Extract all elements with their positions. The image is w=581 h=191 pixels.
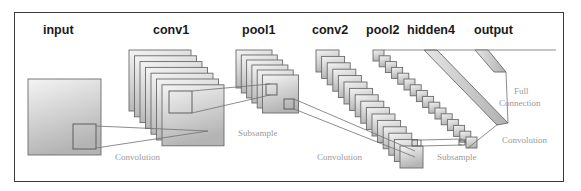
layer-titles: inputconv1pool1conv2pool2hidden4output — [43, 23, 514, 37]
feature-maps — [28, 50, 556, 168]
op-label-full-connection-line1: Full — [514, 86, 529, 96]
cnn-diagram: inputconv1pool1conv2pool2hidden4output C… — [0, 0, 581, 191]
layer-title-hidden4: hidden4 — [407, 23, 455, 37]
layer-title-output: output — [474, 23, 514, 37]
input-map — [28, 79, 101, 155]
op-label-convolution-1: Convolution — [115, 152, 161, 162]
output-bar — [475, 50, 506, 72]
op-label-convolution-3: Convolution — [502, 135, 548, 145]
layer-title-input: input — [43, 23, 74, 37]
hidden4-link — [468, 124, 498, 148]
layer-title-conv2: conv2 — [312, 23, 348, 37]
layer-title-pool2: pool2 — [366, 23, 399, 37]
op-label-convolution-2: Convolution — [317, 152, 363, 162]
pool2-link-top — [421, 139, 462, 140]
pool2-link-bottom — [421, 145, 462, 146]
op-label-subsample-2: Subsample — [437, 152, 477, 162]
op-label-full-connection-line2: Connection — [499, 98, 541, 108]
pool1-map — [263, 75, 299, 113]
layer-title-conv1: conv1 — [153, 23, 189, 37]
op-label-subsample-1: Subsample — [238, 128, 278, 138]
layer-title-pool1: pool1 — [242, 23, 275, 37]
